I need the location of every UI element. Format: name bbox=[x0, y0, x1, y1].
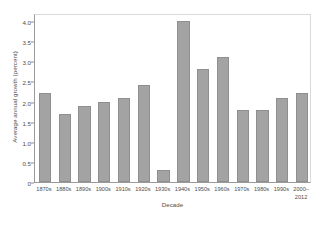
bar bbox=[59, 114, 71, 182]
bar bbox=[256, 110, 268, 182]
bar bbox=[296, 93, 308, 182]
y-tick-label: 0 bbox=[14, 180, 31, 187]
bar bbox=[217, 57, 229, 182]
bar bbox=[276, 98, 288, 183]
bar bbox=[138, 85, 150, 182]
y-tick-label: 2.0 bbox=[14, 99, 31, 106]
bar bbox=[39, 93, 51, 182]
bar bbox=[157, 170, 169, 182]
x-tick-label: 1890s bbox=[76, 186, 91, 194]
x-tick-label: 1920s bbox=[135, 186, 150, 194]
bar bbox=[177, 21, 189, 182]
x-tick-label: 1930s bbox=[155, 186, 170, 194]
bar bbox=[237, 110, 249, 182]
x-tick-label: 1970s bbox=[234, 186, 249, 194]
x-tick-label: 1980s bbox=[254, 186, 269, 194]
x-tick-label: 1910s bbox=[115, 186, 130, 194]
x-tick-label: 1870s bbox=[36, 186, 51, 194]
y-tick-label: 0.5 bbox=[14, 159, 31, 166]
y-tick-label: 2.5 bbox=[14, 79, 31, 86]
bar-chart-figure: Average annual growth (percent) 00.51.01… bbox=[0, 0, 327, 227]
y-tick-label: 3.5 bbox=[14, 39, 31, 46]
y-tick-label: 4.0 bbox=[14, 19, 31, 26]
x-tick-label: 1960s bbox=[214, 186, 229, 194]
x-tick-label: 2000– 2012 bbox=[293, 186, 309, 201]
x-tick-label: 1990s bbox=[274, 186, 289, 194]
bar bbox=[118, 98, 130, 183]
bar bbox=[98, 102, 110, 182]
x-tick-label: 1940s bbox=[175, 186, 190, 194]
x-tick-label: 1880s bbox=[56, 186, 71, 194]
y-tick-label: 1.0 bbox=[14, 139, 31, 146]
bar-series bbox=[35, 15, 310, 182]
y-axis-tick-labels: 00.51.01.52.02.53.03.54.0 bbox=[14, 0, 31, 227]
y-tick-label: 3.0 bbox=[14, 59, 31, 66]
y-tick-label: 1.5 bbox=[14, 119, 31, 126]
bar bbox=[78, 106, 90, 182]
x-axis-title: Decade bbox=[34, 201, 311, 208]
bar bbox=[197, 69, 209, 182]
x-tick-label: 1900s bbox=[96, 186, 111, 194]
x-tick-label: 1950s bbox=[195, 186, 210, 194]
plot-area bbox=[34, 14, 311, 183]
